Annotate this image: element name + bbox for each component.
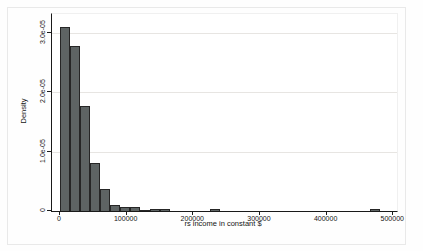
y-tick-label: 3.0e-05 bbox=[39, 20, 46, 44]
y-tick bbox=[47, 210, 51, 211]
y-axis-title: Density bbox=[19, 98, 28, 123]
y-tick bbox=[47, 151, 51, 152]
x-axis-title: rs income in constant $ bbox=[184, 219, 261, 228]
y-tick bbox=[47, 32, 51, 33]
x-tick-label: 400000 bbox=[314, 215, 337, 222]
y-tick-label: 0 bbox=[39, 208, 46, 212]
gridline bbox=[52, 33, 397, 34]
histogram-bar bbox=[110, 205, 120, 211]
x-tick-label: 100000 bbox=[114, 215, 137, 222]
histogram-bar bbox=[130, 207, 140, 211]
gridline bbox=[52, 152, 397, 153]
histogram-bar bbox=[70, 46, 80, 211]
histogram-figure: 01.0e-052.0e-053.0e-05 01000002000003000… bbox=[0, 0, 423, 251]
histogram-bar bbox=[60, 27, 70, 211]
y-tick bbox=[47, 91, 51, 92]
y-tick-label: 1.0e-05 bbox=[39, 139, 46, 163]
y-tick-label: 2.0e-05 bbox=[39, 79, 46, 103]
histogram-bar bbox=[370, 209, 380, 211]
histogram-bar bbox=[140, 210, 150, 211]
plot-area bbox=[51, 13, 398, 212]
histogram-bar bbox=[150, 209, 160, 211]
histogram-bar bbox=[210, 209, 220, 211]
histogram-bar bbox=[90, 163, 100, 211]
gridline bbox=[52, 92, 397, 93]
x-tick-label: 0 bbox=[57, 215, 61, 222]
x-tick-label: 500000 bbox=[381, 215, 404, 222]
histogram-bar bbox=[160, 209, 170, 211]
histogram-bar bbox=[100, 189, 110, 211]
histogram-bar bbox=[80, 106, 90, 211]
